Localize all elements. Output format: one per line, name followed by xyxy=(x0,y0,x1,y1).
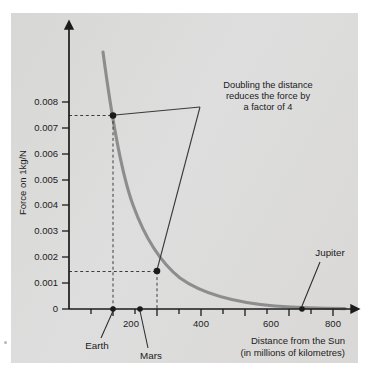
y-axis-title: Force on 1kg/N xyxy=(17,150,28,215)
planet-label-jupiter: Jupiter xyxy=(315,247,345,258)
leader-earth xyxy=(101,311,113,338)
guide-lines xyxy=(69,116,157,310)
y-axis-ticks xyxy=(62,102,69,309)
x-tick-label: 800 xyxy=(325,318,341,329)
y-tick-label: 0.007 xyxy=(34,122,58,133)
y-tick-label: 0.004 xyxy=(34,199,58,210)
x-tick-label: 200 xyxy=(123,318,139,329)
x-tick-label: 600 xyxy=(263,318,279,329)
x-axis-title-sub: (in millions of kilometres) xyxy=(240,347,345,358)
x-axis-ticks xyxy=(91,309,333,316)
annotation-line-2: reduces the force by xyxy=(226,91,311,101)
annotation-line-3: a factor of 4 xyxy=(243,102,292,112)
planet-marker-jupiter xyxy=(299,306,305,312)
y-tick-label: 0.002 xyxy=(34,251,58,262)
planet-marker-mars xyxy=(137,306,143,312)
leader-mars xyxy=(140,311,148,348)
y-tick-label: 0.005 xyxy=(34,174,58,185)
y-tick-label: 0.003 xyxy=(34,225,58,236)
y-tick-label: 0.001 xyxy=(34,277,58,288)
x-axis-tick-labels: 200 400 600 800 xyxy=(123,318,341,329)
y-axis-tick-labels: 0 0.001 0.002 0.003 0.004 0.005 0.006 0.… xyxy=(34,96,58,314)
x-axis-title: Distance from the Sun xyxy=(251,335,345,346)
y-tick-label: 0 xyxy=(53,303,58,314)
y-tick-label: 0.006 xyxy=(34,148,58,159)
x-tick-label: 400 xyxy=(193,318,209,329)
gravity-force-chart: 0 0.001 0.002 0.003 0.004 0.005 0.006 0.… xyxy=(0,0,381,373)
planet-marker-earth xyxy=(110,306,116,312)
leader-to-double-point xyxy=(157,107,200,270)
axes xyxy=(69,28,352,309)
planet-label-mars: Mars xyxy=(140,350,162,361)
data-point-earth-force xyxy=(110,112,117,119)
data-point-double-distance xyxy=(154,268,161,275)
leader-to-earth-point xyxy=(115,107,200,115)
figure-page: 0 0.001 0.002 0.003 0.004 0.005 0.006 0.… xyxy=(0,0,381,373)
planet-label-earth: Earth xyxy=(85,340,108,351)
leader-jupiter xyxy=(302,262,320,306)
annotation-doubling: Doubling the distance reduces the force … xyxy=(223,80,312,112)
annotation-line-1: Doubling the distance xyxy=(223,80,312,90)
y-tick-label: 0.008 xyxy=(34,96,58,107)
